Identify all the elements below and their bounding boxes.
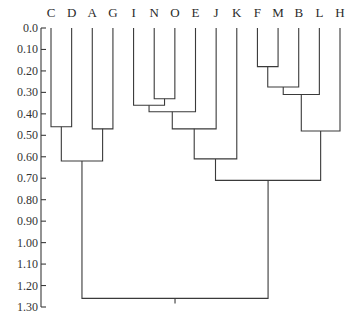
merge-link-cdag	[61, 127, 102, 161]
merge-link-inoejk	[194, 28, 237, 159]
merge-link-cd	[51, 28, 72, 127]
y-tick-label: 0.40	[17, 107, 38, 121]
y-tick-label: 0.30	[17, 85, 38, 99]
leaf-label-j: J	[214, 5, 219, 20]
y-tick-label: 0.0	[23, 21, 38, 35]
leaf-labels: CDAGINOEJKFMBLH	[47, 5, 345, 20]
y-tick-label: 0.10	[17, 42, 38, 56]
leaf-label-g: G	[108, 5, 117, 20]
leaf-label-h: H	[335, 5, 344, 20]
leaf-label-b: B	[294, 5, 303, 20]
merge-link-fmblh	[301, 28, 340, 131]
leaf-label-a: A	[88, 5, 98, 20]
y-tick-label: 0.90	[17, 214, 38, 228]
merge-link-ino	[134, 28, 165, 105]
leaf-label-l: L	[315, 5, 323, 20]
merge-link-fmbl	[283, 28, 319, 95]
merge-link-no	[154, 28, 175, 99]
merge-link-ag	[92, 28, 113, 129]
leaf-label-f: F	[254, 5, 261, 20]
dendrogram-chart: 0.00.100.200.300.400.500.600.700.800.901…	[0, 0, 350, 316]
y-axis: 0.00.100.200.300.400.500.600.700.800.901…	[17, 21, 46, 314]
merge-link-fm	[257, 28, 278, 67]
leaf-label-e: E	[192, 5, 200, 20]
y-tick-label: 1.00	[17, 236, 38, 250]
y-tick-label: 1.20	[17, 279, 38, 293]
y-tick-label: 1.10	[17, 257, 38, 271]
merge-link-root	[82, 161, 268, 298]
y-tick-label: 0.50	[17, 128, 38, 142]
leaf-label-o: O	[170, 5, 179, 20]
merge-link-fmb	[268, 28, 299, 87]
dendrogram-tree	[51, 28, 340, 303]
y-tick-label: 0.80	[17, 193, 38, 207]
y-tick-label: 0.20	[17, 64, 38, 78]
leaf-label-i: I	[131, 5, 135, 20]
merge-link-right	[215, 131, 320, 180]
merge-link-inoej	[172, 28, 216, 129]
y-tick-label: 1.30	[17, 300, 38, 314]
y-tick-label: 0.70	[17, 171, 38, 185]
leaf-label-k: K	[232, 5, 242, 20]
leaf-label-c: C	[47, 5, 56, 20]
leaf-label-m: M	[272, 5, 284, 20]
leaf-label-n: N	[150, 5, 160, 20]
y-tick-label: 0.60	[17, 150, 38, 164]
leaf-label-d: D	[67, 5, 76, 20]
